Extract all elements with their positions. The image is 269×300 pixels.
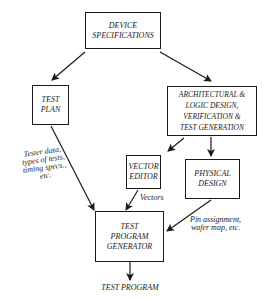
arrow-vector-to-generator [126,190,138,210]
node-label-line: PROGRAM [111,232,149,242]
node-label-line: DEVICE [109,21,137,31]
node-label-line: TEST GENERATION [180,122,244,133]
output-test-program: TEST PROGRAM [97,284,163,292]
node-label-line: GENERATOR [107,242,152,252]
node-vector-editor: VECTOR EDITOR [126,155,161,189]
node-label-line: VERIFICATION & [183,111,240,122]
arrow-spec-to-arch [160,52,211,81]
arrow-spec-to-testplan [52,52,85,80]
node-label-line: ARCHITECTURAL & [179,89,245,100]
edge-label-line: wafer map, etc. [190,224,241,232]
edge-label-vectors: Vectors [140,194,164,202]
node-architectural-logic-design: ARCHITECTURAL & LOGIC DESIGN, VERIFICATI… [167,86,257,136]
node-test-program-generator: TEST PROGRAM GENERATOR [95,211,164,262]
node-test-plan: TEST PLAN [32,85,69,125]
node-label-line: EDITOR [129,172,157,182]
node-label-line: PLAN [41,105,61,115]
node-label-line: LOGIC DESIGN, [186,100,239,111]
node-label-line: TEST [121,222,139,232]
node-label-line: TEST [42,95,60,105]
flow-diagram: DEVICE SPECIFICATIONS TEST PLAN ARCHITEC… [0,0,269,300]
node-physical-design: PHYSICAL DESIGN [185,159,240,199]
arrow-arch-to-vector [168,138,184,151]
node-label-line: SPECIFICATIONS [92,31,153,41]
edge-label-line: Vectors [140,194,164,202]
node-label-line: VECTOR [128,162,158,172]
edge-label-pin-assignment: Pin assignment, wafer map, etc. [190,216,241,232]
output-label: TEST PROGRAM [97,284,163,292]
node-device-specifications: DEVICE SPECIFICATIONS [85,12,161,49]
node-label-line: DESIGN [198,179,226,189]
node-label-line: PHYSICAL [194,169,230,179]
